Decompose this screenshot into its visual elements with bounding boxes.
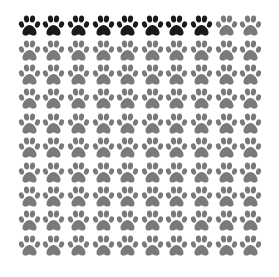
paw-print-icon <box>66 112 91 136</box>
paw-print-icon <box>238 112 263 136</box>
paw-print-icon <box>91 63 116 87</box>
paw-print-icon <box>214 209 239 233</box>
paw-print-icon <box>165 87 190 111</box>
paw-print-icon <box>238 160 263 184</box>
paw-print-icon <box>91 136 116 160</box>
paw-print-icon <box>42 38 67 62</box>
paw-print-icon <box>115 14 140 38</box>
paw-print-icon <box>115 209 140 233</box>
paw-print-icon <box>189 234 214 258</box>
paw-print-icon <box>42 63 67 87</box>
paw-print-icon <box>189 160 214 184</box>
paw-print-icon <box>214 185 239 209</box>
paw-print-icon <box>115 63 140 87</box>
paw-print-icon <box>238 14 263 38</box>
paw-print-icon <box>91 234 116 258</box>
paw-print-icon <box>165 14 190 38</box>
paw-print-icon <box>17 14 42 38</box>
paw-print-icon <box>17 209 42 233</box>
paw-print-icon <box>165 160 190 184</box>
paw-print-icon <box>238 234 263 258</box>
paw-print-icon <box>214 38 239 62</box>
paw-print-icon <box>42 160 67 184</box>
paw-print-icon <box>140 209 165 233</box>
paw-print-icon <box>66 209 91 233</box>
paw-print-icon <box>42 112 67 136</box>
paw-print-icon <box>165 112 190 136</box>
paw-print-icon <box>17 136 42 160</box>
paw-print-icon <box>238 87 263 111</box>
paw-print-icon <box>66 63 91 87</box>
paw-print-icon <box>140 63 165 87</box>
paw-print-icon <box>214 14 239 38</box>
paw-print-icon <box>165 63 190 87</box>
paw-print-icon <box>238 63 263 87</box>
paw-print-icon <box>17 185 42 209</box>
paw-print-icon <box>91 38 116 62</box>
paw-print-icon <box>140 160 165 184</box>
paw-print-icon <box>165 38 190 62</box>
paw-print-icon <box>17 63 42 87</box>
paw-print-icon <box>189 38 214 62</box>
paw-print-icon <box>189 87 214 111</box>
paw-print-icon <box>165 136 190 160</box>
paw-print-icon <box>214 160 239 184</box>
paw-print-icon <box>140 136 165 160</box>
paw-print-icon <box>115 112 140 136</box>
paw-print-icon <box>115 234 140 258</box>
paw-print-icon <box>189 185 214 209</box>
paw-print-icon <box>189 112 214 136</box>
paw-print-icon <box>17 160 42 184</box>
paw-print-icon <box>42 87 67 111</box>
paw-print-icon <box>140 185 165 209</box>
paw-print-icon <box>91 112 116 136</box>
paw-print-icon <box>91 160 116 184</box>
paw-print-icon <box>115 160 140 184</box>
paw-print-icon <box>42 209 67 233</box>
paw-print-icon <box>66 136 91 160</box>
paw-print-icon <box>165 209 190 233</box>
paw-print-icon <box>91 185 116 209</box>
paw-print-icon <box>42 14 67 38</box>
paw-print-icon <box>214 87 239 111</box>
paw-print-icon <box>140 38 165 62</box>
paw-print-icon <box>238 136 263 160</box>
paw-print-icon <box>115 87 140 111</box>
paw-print-icon <box>115 38 140 62</box>
paw-print-icon <box>17 112 42 136</box>
paw-print-icon <box>42 136 67 160</box>
paw-print-icon <box>189 14 214 38</box>
paw-print-icon <box>140 234 165 258</box>
paw-print-icon <box>91 87 116 111</box>
paw-print-icon <box>165 185 190 209</box>
paw-print-icon <box>238 185 263 209</box>
paw-print-icon <box>140 112 165 136</box>
paw-print-icon <box>17 234 42 258</box>
paw-print-icon <box>140 87 165 111</box>
paw-print-icon <box>214 112 239 136</box>
paw-print-icon <box>115 136 140 160</box>
paw-print-icon <box>238 38 263 62</box>
paw-print-icon <box>238 209 263 233</box>
paw-print-icon <box>66 87 91 111</box>
paw-print-icon <box>115 185 140 209</box>
paw-print-icon <box>66 38 91 62</box>
paw-print-icon <box>66 234 91 258</box>
paw-print-icon <box>140 14 165 38</box>
paw-print-icon <box>66 160 91 184</box>
paw-print-icon <box>66 14 91 38</box>
paw-print-icon <box>17 87 42 111</box>
paw-print-icon <box>165 234 190 258</box>
paw-print-icon <box>214 234 239 258</box>
paw-pictogram-grid <box>17 14 263 260</box>
paw-print-icon <box>214 63 239 87</box>
paw-print-icon <box>17 38 42 62</box>
paw-print-icon <box>66 185 91 209</box>
paw-print-icon <box>214 136 239 160</box>
paw-print-icon <box>189 209 214 233</box>
paw-print-icon <box>189 63 214 87</box>
paw-print-icon <box>91 14 116 38</box>
paw-print-icon <box>42 185 67 209</box>
paw-print-icon <box>189 136 214 160</box>
paw-print-icon <box>42 234 67 258</box>
